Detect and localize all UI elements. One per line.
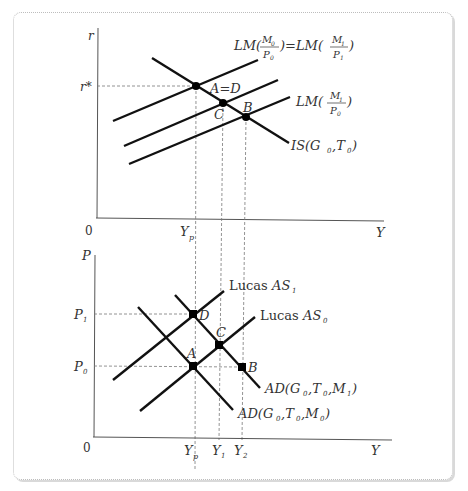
lucas-as0-label: Lucas AS 0: [260, 308, 328, 325]
svg-text:P: P: [329, 105, 337, 116]
svg-text:LM(: LM(: [233, 38, 262, 53]
p0-guide: [94, 366, 242, 367]
svg-text:AS: AS: [271, 278, 290, 293]
point-a: [189, 362, 197, 370]
point-a-d-label: A=D: [209, 81, 241, 96]
svg-text:1: 1: [339, 96, 343, 103]
y2-label: Y 2: [234, 443, 248, 460]
yp-label-bottom: Y p: [184, 443, 198, 461]
svg-text:2: 2: [242, 452, 248, 460]
point-d-label: D: [198, 308, 210, 323]
yp-guide: [195, 86, 196, 470]
svg-text:): ): [351, 381, 357, 396]
rstar-label: r*: [80, 80, 92, 94]
svg-text:p: p: [193, 452, 198, 461]
svg-text:): ): [348, 38, 354, 53]
svg-text:1: 1: [340, 54, 344, 61]
point-d: [189, 310, 197, 318]
lm-curve-2: [129, 97, 290, 164]
svg-text:P: P: [73, 359, 83, 374]
svg-text:AD(G: AD(G: [237, 406, 273, 421]
point-b-bottom: [238, 363, 246, 371]
svg-text:AS: AS: [302, 308, 321, 323]
svg-text:1: 1: [292, 287, 296, 295]
lm-curve-2-label: LM( M 1 P 0 ): [295, 90, 352, 117]
svg-text:0: 0: [323, 317, 328, 325]
lucas-as1-label: Lucas AS 1: [229, 278, 296, 295]
point-c-top: [219, 99, 227, 107]
islm-chart: r r* 0 Y Y p A=D C B LM( M 0 P 0 )=LM( M…: [80, 28, 386, 470]
r-axis-label: r: [88, 29, 95, 43]
yp-label-top: Y p: [180, 224, 194, 242]
point-b-bottom-label: B: [247, 360, 258, 375]
p-axis: [94, 255, 95, 437]
p0-label: P 0: [73, 359, 88, 376]
y-axis-bottom: [93, 437, 392, 440]
y-axis-label-bottom: Y: [371, 443, 381, 458]
point-c-bottom: [215, 341, 223, 349]
origin-bottom: 0: [83, 441, 91, 455]
svg-text:0: 0: [83, 368, 88, 376]
lm-curve-mid: [124, 80, 278, 146]
lucas-as1-curve: [113, 291, 224, 380]
svg-text:,T: ,T: [281, 406, 295, 421]
svg-text:P: P: [332, 49, 340, 60]
svg-text:0: 0: [270, 54, 274, 61]
svg-text:IS(G: IS(G: [290, 138, 321, 153]
svg-text:1: 1: [347, 390, 351, 398]
origin-top: 0: [85, 224, 93, 238]
svg-text:,M: ,M: [328, 381, 346, 396]
y1-label: Y 1: [212, 443, 225, 460]
svg-text:)=LM(: )=LM(: [279, 38, 324, 53]
point-c-top-label: C: [214, 107, 224, 122]
point-a-label: A: [186, 346, 196, 361]
svg-text:Lucas: Lucas: [229, 278, 268, 293]
diagram-canvas: r r* 0 Y Y p A=D C B LM( M 0 P 0 )=LM( M…: [0, 0, 468, 491]
p1-label: P 1: [73, 307, 87, 324]
svg-text:1: 1: [341, 40, 345, 47]
ad0-label: AD(G 0 ,T 0 ,M 0 ): [237, 406, 330, 423]
point-b-top-label: B: [242, 100, 253, 115]
y-axis-label-top: Y: [376, 225, 386, 240]
adas-chart: P P 1 P 0 0 Y Y p Y 1 Y 2 D C A B Lucas …: [73, 248, 392, 461]
svg-text:): ): [346, 94, 352, 109]
is-curve-label: IS(G 0 ,T 0 ): [290, 138, 357, 155]
point-c-bottom-label: C: [216, 325, 226, 340]
svg-text:0: 0: [271, 40, 275, 47]
svg-text:p: p: [189, 233, 194, 242]
svg-text:,T: ,T: [332, 138, 346, 153]
c-guide: [219, 103, 223, 440]
svg-text:): ): [324, 406, 330, 421]
svg-text:,T: ,T: [308, 381, 322, 396]
svg-text:P: P: [262, 49, 270, 60]
svg-text:AD(G: AD(G: [264, 381, 300, 396]
svg-text:P: P: [73, 307, 83, 322]
ad1-label: AD(G 0 ,T 0 ,M 1 ): [264, 381, 357, 398]
svg-text:,M: ,M: [301, 406, 319, 421]
p-axis-label: P: [81, 248, 91, 263]
r-axis: [97, 28, 98, 218]
point-a-d: [192, 82, 200, 90]
svg-text:LM(: LM(: [295, 94, 324, 109]
svg-text:0: 0: [337, 110, 341, 117]
lm-curve-1-label: LM( M 0 P 0 )=LM( M 1 P 1 ): [233, 34, 354, 61]
svg-text:Lucas: Lucas: [260, 308, 299, 323]
svg-text:1: 1: [83, 316, 87, 324]
svg-text:1: 1: [221, 452, 225, 460]
svg-text:): ): [351, 138, 357, 153]
y-axis-top: [96, 218, 384, 221]
